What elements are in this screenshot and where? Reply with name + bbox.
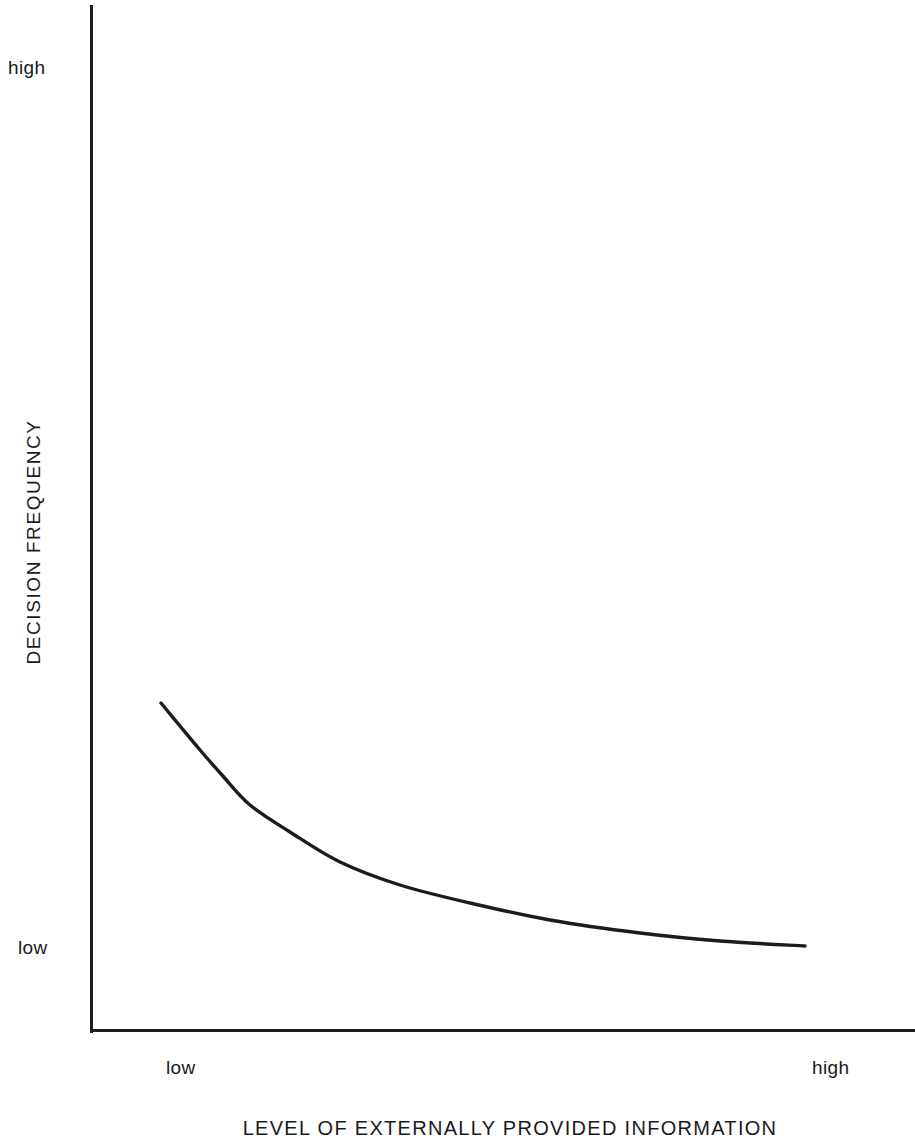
- x-axis-tick-high: high: [812, 1058, 850, 1077]
- y-axis-title: DECISION FREQUENCY: [24, 419, 43, 664]
- decision-frequency-curve: [161, 703, 805, 946]
- x-axis-tick-low: low: [166, 1058, 196, 1077]
- y-axis-tick-low: low: [18, 938, 48, 957]
- y-axis-tick-high: high: [8, 58, 46, 77]
- x-axis-line: [90, 1029, 915, 1032]
- chart-figure: high low low high DECISION FREQUENCY LEV…: [0, 0, 915, 1148]
- x-axis-title: LEVEL OF EXTERNALLY PROVIDED INFORMATION: [0, 1118, 915, 1138]
- y-axis-line: [90, 5, 93, 1033]
- plot-curve-layer: [0, 0, 915, 1148]
